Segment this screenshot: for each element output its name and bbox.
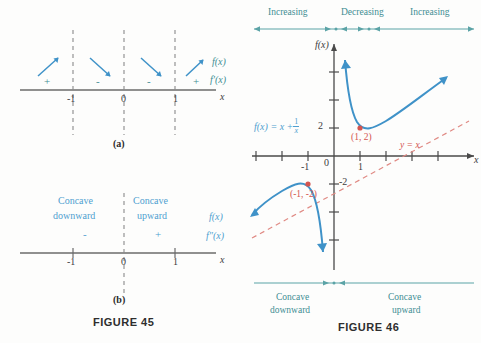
figure-46-top-label-increasing-2: Increasing — [410, 8, 450, 18]
figure-46-graph — [246, 38, 481, 278]
graph-x-axis-label: x — [474, 155, 478, 165]
figure-46-bottom-label-upward-line1: Concave — [388, 293, 421, 303]
figure-46-top-label-increasing-1: Increasing — [268, 8, 308, 18]
panel-a-number-line-graphic — [0, 10, 240, 140]
graph-curve-left-arrow-down — [317, 243, 327, 252]
panel-b-number-line-graphic — [0, 185, 240, 295]
panel-b-tick-neg1: -1 — [67, 257, 75, 267]
panel-a-sign-2: - — [96, 76, 100, 87]
panel-a-axis-label-x: x — [220, 92, 224, 102]
graph-ytick-label-2: 2 — [318, 121, 323, 131]
graph-point-label-neg1-neg2: (-1, -2) — [290, 190, 317, 200]
graph-xtick-label-zero: 0 — [324, 158, 329, 168]
figure-46: Increasing Decreasing Increasing — [246, 0, 481, 343]
graph-point-1-2 — [357, 125, 362, 130]
panel-b-axis-label-x: x — [220, 255, 224, 265]
figure-46-caption: FIGURE 46 — [338, 322, 399, 333]
panel-b-tick-pos1: 1 — [173, 257, 178, 267]
panel-b-region1-line1: Concave — [58, 196, 93, 206]
graph-ytick-label-neg2: -2 — [339, 177, 347, 187]
graph-function-formula: f(x) = x +1x — [254, 118, 299, 136]
panel-a-letter: (a) — [113, 139, 125, 149]
panel-a-sign-3: - — [147, 76, 151, 87]
graph-xtick-label-pos1: 1 — [358, 162, 363, 172]
figure-46-bottom-label-downward-line1: Concave — [276, 293, 309, 303]
graph-curve-right-arrow-up — [341, 60, 351, 69]
panel-a-row-label-fx: f(x) — [212, 57, 226, 67]
panel-b-region2-line2: upward — [137, 211, 167, 221]
panel-b-region2-sign: + — [155, 229, 161, 240]
figure-45-panel-a: + - - + f(x) f'(x) -1 0 1 x (a) — [0, 10, 240, 165]
figure-46-top-label-decreasing: Decreasing — [341, 8, 384, 18]
panel-b-region1-sign: - — [83, 229, 87, 240]
textbook-figure-page: + - - + f(x) f'(x) -1 0 1 x (a) — [0, 0, 481, 343]
graph-asymptote-label: y = x — [400, 141, 420, 151]
panel-b-row-label-fx: f(x) — [209, 212, 223, 222]
figure-46-bottom-label-upward-line2: upward — [392, 306, 421, 316]
graph-function-fraction: 1x — [293, 118, 299, 136]
panel-a-sign-1: + — [44, 76, 50, 87]
graph-function-formula-text: f(x) = x + — [254, 121, 293, 132]
figure-46-bottom-label-downward-line2: downward — [270, 306, 310, 316]
graph-curve-right-branch — [345, 60, 446, 128]
panel-b-row-label-fdoubleprime: f″(x) — [206, 231, 224, 241]
figure-45-caption: FIGURE 45 — [93, 317, 154, 328]
graph-xtick-label-neg1: -1 — [301, 162, 309, 172]
panel-b-region1-line2: downward — [53, 211, 95, 221]
panel-a-row-label-fprime: f'(x) — [210, 75, 226, 85]
figure-46-top-interval-bar — [246, 20, 481, 38]
panel-a-arrow-up-1 — [38, 58, 58, 76]
graph-y-axis-label: f(x) — [315, 40, 329, 50]
panel-a-tick-neg1: -1 — [67, 94, 75, 104]
figure-45: + - - + f(x) f'(x) -1 0 1 x (a) — [0, 0, 240, 343]
graph-point-label-1-2: (1, 2) — [351, 133, 372, 143]
panel-a-tick-pos1: 1 — [173, 94, 178, 104]
graph-point-neg1-neg2 — [305, 181, 310, 186]
panel-a-sign-4: + — [193, 76, 199, 87]
figure-45-panel-b: Concave downward - Concave upward + f(x)… — [0, 185, 240, 315]
panel-b-tick-zero: 0 — [121, 257, 126, 267]
panel-b-region2-line1: Concave — [133, 196, 168, 206]
graph-curve-right-arrow-upright — [439, 76, 448, 85]
figure-46-bottom-interval-bar — [246, 276, 481, 290]
graph-function-denominator: x — [293, 127, 299, 135]
panel-b-letter: (b) — [113, 295, 125, 305]
panel-a-tick-zero: 0 — [121, 94, 126, 104]
